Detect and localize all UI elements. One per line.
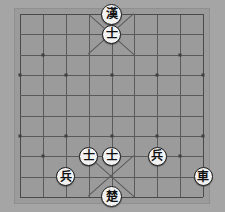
star-point [19,73,22,76]
grid-line-vertical [157,14,158,197]
grid-line-vertical [20,14,21,197]
star-point [110,73,113,76]
star-point [41,53,44,56]
star-point [179,53,182,56]
piece-chariot[interactable]: 車 [194,167,213,186]
piece-soldier[interactable]: 兵 [148,147,167,166]
star-point [179,155,182,158]
piece-glyph: 士 [83,150,95,162]
star-point [110,134,113,137]
piece-han-general[interactable]: 漢 [101,4,122,25]
piece-glyph: 兵 [60,171,72,183]
grid-line-vertical [180,14,181,197]
star-point [19,134,22,137]
star-point [202,134,205,137]
piece-advisor[interactable]: 士 [79,147,98,166]
grid-line-horizontal [20,116,203,117]
xiangqi-screenshot: 漢士士士兵兵車楚 [0,0,225,212]
piece-advisor[interactable]: 士 [102,147,121,166]
star-point [41,155,44,158]
piece-glyph: 兵 [151,150,163,162]
piece-glyph: 漢 [106,8,118,20]
piece-glyph: 車 [197,171,209,183]
grid-line-vertical [134,14,135,197]
piece-advisor[interactable]: 士 [102,25,121,44]
star-point [156,134,159,137]
piece-glyph: 士 [106,28,118,40]
piece-glyph: 楚 [106,191,118,203]
grid-line-horizontal [20,55,203,56]
grid-line-vertical [43,14,44,197]
star-point [64,134,67,137]
star-point [156,73,159,76]
grid-line-horizontal [20,95,203,96]
grid-line-vertical [89,14,90,197]
star-point [202,73,205,76]
piece-glyph: 士 [106,150,118,162]
star-point [64,73,67,76]
